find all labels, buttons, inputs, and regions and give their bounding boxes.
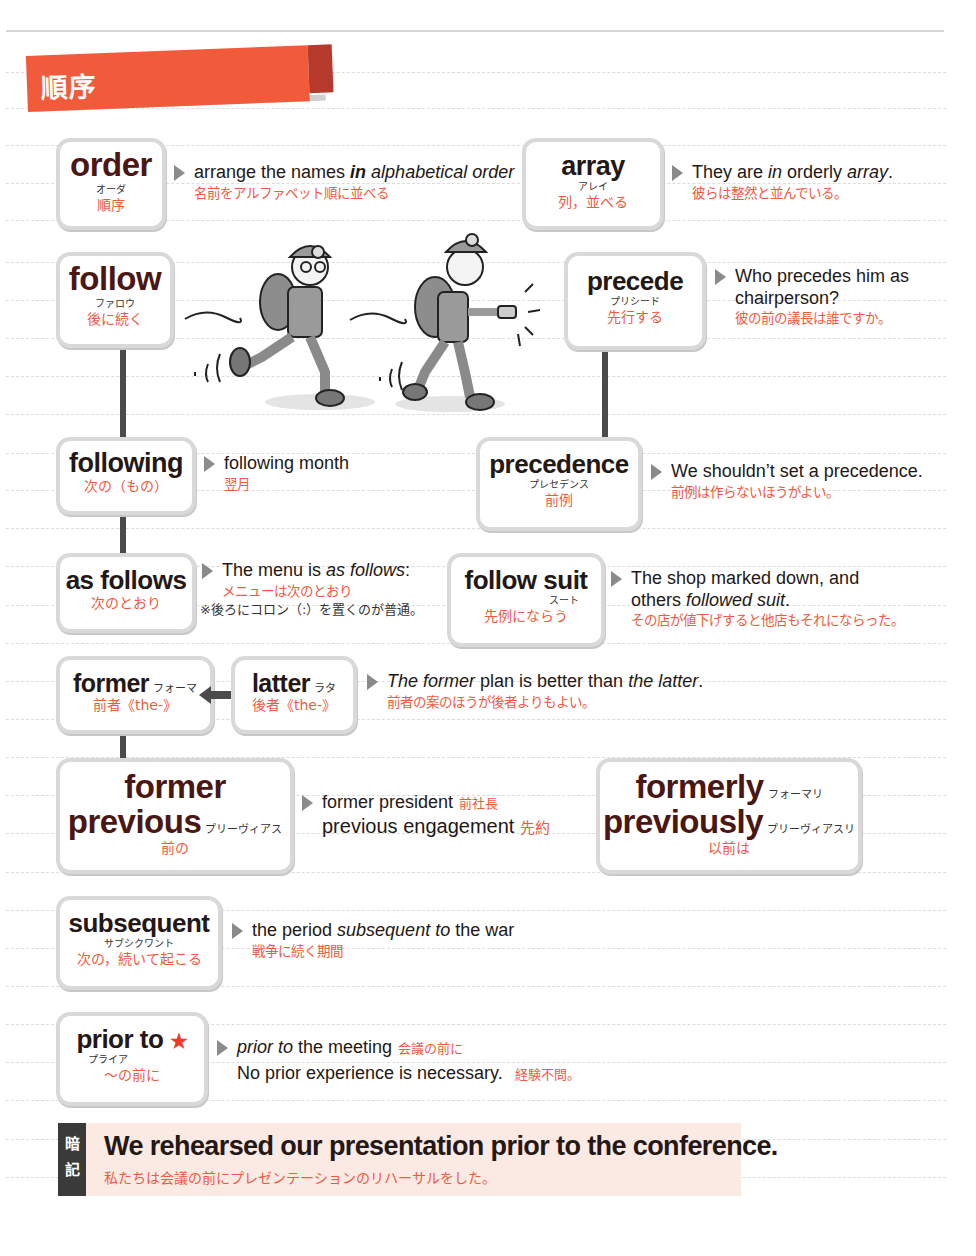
memorize-sentence-box: 暗 記 We rehearsed our presentation prior …: [58, 1123, 741, 1196]
triangle-bullet-icon: [651, 464, 662, 480]
connector-precede-precedence: [602, 340, 608, 446]
card-latter: latterラタ 後者《the-》: [231, 656, 357, 734]
meaning: 後に続く: [60, 310, 170, 328]
headword: precedence: [480, 451, 638, 478]
headword: prior to ★: [60, 1026, 204, 1053]
card-order: order オーダ 順序: [56, 138, 166, 230]
meaning: 次の（もの）: [60, 477, 192, 495]
card-follow-suit: follow suit スート 先例にならう: [447, 553, 605, 647]
headword: order: [60, 148, 162, 183]
example-following: following month 翌月: [224, 453, 349, 493]
headword: follow: [60, 262, 170, 297]
dashed-rule: [6, 528, 946, 529]
triangle-bullet-icon: [367, 674, 378, 690]
meaning: 順序: [60, 196, 162, 214]
memorize-translation: 私たちは会議の前にプレゼンテーションのリハーサルをした。: [104, 1167, 496, 1187]
example-translation: 戦争に続く期間: [252, 942, 514, 960]
triangle-bullet-icon: [217, 1040, 228, 1056]
meaning: 前例: [480, 491, 638, 509]
triangle-bullet-icon: [611, 571, 622, 587]
example-precede: Who precedes him as chairperson? 彼の前の議長は…: [735, 266, 909, 327]
meaning: 前の: [60, 839, 290, 857]
card-array: array アレイ 列，並べる: [522, 138, 664, 230]
headword-formerly: formerlyフォーマリ: [600, 770, 858, 805]
pronunciation: アレイ: [526, 180, 660, 193]
card-formerly-previously: formerlyフォーマリ previouslyプリーヴィアスリ 以前は: [596, 758, 862, 874]
card-subsequent: subsequent サブシクワント 次の，続いて起こる: [56, 896, 222, 990]
pronunciation: ラタ: [314, 682, 336, 695]
pronunciation: プレセデンス: [480, 478, 638, 491]
pronunciation: サブシクワント: [60, 937, 218, 950]
example-former-previous: former president前社長 previous engagement先…: [322, 792, 550, 838]
meaning: 次のとおり: [60, 594, 192, 612]
headword: formerフォーマ: [60, 670, 210, 696]
pronunciation: スート: [451, 594, 601, 607]
top-rule: [6, 30, 944, 32]
star-icon: ★: [170, 1030, 188, 1052]
trailing-hiker-with-flashlight: [350, 234, 540, 412]
triangle-bullet-icon: [202, 563, 213, 579]
triangle-bullet-icon: [204, 456, 215, 472]
memorize-sentence: We rehearsed our presentation prior to t…: [104, 1131, 778, 1162]
headword: subsequent: [60, 910, 218, 937]
pronunciation: プリシード: [568, 295, 702, 308]
triangle-bullet-icon: [302, 795, 313, 811]
card-former: formerフォーマ 前者《the-》: [56, 656, 214, 734]
pronunciation: オーダ: [60, 183, 162, 196]
example-former-latter: The former plan is better than the latte…: [387, 671, 703, 711]
card-following: following 次の（もの）: [56, 437, 196, 515]
card-follow: follow ファロウ 後に続く: [56, 252, 174, 348]
card-precede: precede プリシード 先行する: [564, 252, 706, 350]
example-translation: 翌月: [224, 475, 349, 493]
meaning: 列，並べる: [526, 193, 660, 211]
card-precedence: precedence プレセデンス 前例: [476, 437, 642, 531]
pronunciation: ファロウ: [60, 297, 170, 310]
headword: following: [60, 449, 192, 477]
example-translation: メニューは次のとおり: [222, 582, 423, 600]
headword: as follows: [60, 567, 192, 594]
example-prior-to: prior to the meeting会議の前に No prior exper…: [237, 1037, 580, 1084]
triangle-bullet-icon: [715, 269, 726, 285]
pronunciation: プリーヴィアス: [205, 823, 282, 836]
example-array: They are in orderly array. 彼らは整然と並んでいる。: [692, 162, 893, 202]
leading-hiker: [185, 246, 375, 410]
hikers-illustration: [180, 222, 560, 422]
example-translation: 彼らは整然と並んでいる。: [692, 184, 893, 202]
card-as-follows: as follows 次のとおり: [56, 553, 196, 633]
meaning: ～の前に: [60, 1066, 204, 1084]
pronunciation: フォーマ: [153, 682, 197, 695]
example-order: arrange the names in alphabetical order …: [194, 162, 514, 202]
section-banner: 順序: [26, 44, 334, 112]
meaning: 以前は: [600, 839, 858, 857]
card-former-previous: former previousプリーヴィアス 前の: [56, 758, 294, 874]
card-prior-to: prior to ★ プライア ～の前に: [56, 1012, 208, 1106]
pronunciation: フォーマリ: [768, 788, 823, 801]
pronunciation: プライア: [60, 1053, 204, 1066]
example-translation: 前者の案のほうが後者よりもよい。: [387, 693, 703, 711]
example-follow-suit: The shop marked down, and others followe…: [631, 568, 904, 629]
headword: follow suit: [451, 567, 601, 594]
example-subsequent: the period subsequent to the war 戦争に続く期間: [252, 920, 514, 960]
headword-previous: previousプリーヴィアス: [60, 805, 290, 840]
headword: precede: [568, 268, 702, 295]
example-translation: 彼の前の議長は誰ですか。: [735, 309, 909, 327]
dashed-rule: [6, 108, 946, 109]
headword-previously: previouslyプリーヴィアスリ: [600, 805, 858, 840]
usage-note: ※後ろにコロン（:）を置くのが普通。: [200, 600, 423, 620]
example-as-follows: The menu is as follows: メニューは次のとおり ※後ろにコ…: [222, 560, 423, 619]
memorize-tag: 暗 記: [58, 1123, 86, 1196]
triangle-bullet-icon: [232, 923, 243, 939]
banner-end-tab: [308, 44, 334, 93]
meaning: 次の，続いて起こる: [60, 950, 218, 968]
meaning: 前者《the-》: [60, 696, 210, 714]
example-translation: 名前をアルファベット順に並べる: [194, 184, 514, 202]
triangle-bullet-icon: [174, 165, 185, 181]
connector-follow-following: [120, 340, 126, 444]
headword: array: [526, 152, 660, 180]
example-translation: 前例は作らないほうがよい。: [671, 483, 923, 501]
meaning: 後者《the-》: [235, 696, 353, 714]
headword: latterラタ: [235, 670, 353, 696]
meaning: 先行する: [568, 308, 702, 326]
triangle-bullet-icon: [672, 165, 683, 181]
pronunciation: プリーヴィアスリ: [767, 823, 855, 836]
